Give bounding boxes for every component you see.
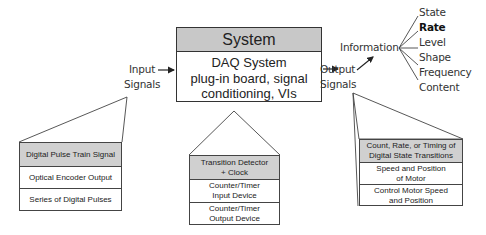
system-stack-item: Counter/Timer Input Device <box>190 179 279 202</box>
info-item-state: State <box>419 5 471 20</box>
output-stack-line: Speed and Position <box>376 164 445 174</box>
system-callout <box>189 111 280 155</box>
system-stack-item: Counter/Timer Output Device <box>190 202 279 224</box>
input-label-line-1: Input <box>124 62 160 77</box>
input-signals-label: Input Signals <box>124 62 160 92</box>
input-signal-stack: Digital Pulse Train Signal Optical Encod… <box>19 142 122 211</box>
info-item-content: Content <box>419 80 471 95</box>
system-stack-line: Input Device <box>212 191 256 201</box>
output-stack-item: Count, Rate, or Timing of Digital State … <box>360 140 462 162</box>
info-item-shape: Shape <box>419 50 471 65</box>
output-signal-stack: Count, Rate, or Timing of Digital State … <box>359 139 463 206</box>
information-fan-lines <box>399 16 418 80</box>
system-component-stack: Transition Detector + Clock Counter/Time… <box>189 155 280 225</box>
output-signals-label: Output Signals <box>320 62 360 92</box>
input-callout <box>19 97 127 142</box>
system-body-line: conditioning, VIs <box>177 86 321 102</box>
output-stack-item: Speed and Position of Motor <box>360 162 462 184</box>
output-stack-line: Control Motor Speed <box>374 186 448 196</box>
system-body-line: plug-in board, signal <box>177 71 321 87</box>
system-body-line: DAQ System <box>177 55 321 71</box>
output-stack-line: and Position <box>389 196 433 206</box>
input-stack-item: Digital Pulse Train Signal <box>20 143 121 166</box>
input-stack-item: Series of Digital Pulses <box>20 188 121 210</box>
output-label-line-2: Signals <box>320 77 360 92</box>
output-stack-line: of Motor <box>396 174 425 184</box>
information-label: Information <box>340 40 399 55</box>
system-stack-line: Counter/Timer <box>209 204 260 214</box>
info-item-rate: Rate <box>419 20 471 35</box>
system-stack-item: Transition Detector + Clock <box>190 156 279 179</box>
output-stack-line: Digital State Transitions <box>369 151 453 161</box>
output-label-line-1: Output <box>320 62 360 77</box>
output-stack-line: Count, Rate, or Timing of <box>367 141 456 151</box>
system-stack-line: Counter/Timer <box>209 181 260 191</box>
info-item-level: Level <box>419 35 471 50</box>
system-stack-line: Transition Detector <box>201 158 268 168</box>
system-stack-line: Output Device <box>209 214 260 224</box>
information-list: State Rate Level Shape Frequency Content <box>419 5 471 95</box>
system-box: System DAQ System plug-in board, signal … <box>176 27 322 102</box>
input-stack-item: Optical Encoder Output <box>20 166 121 188</box>
system-title: System <box>177 28 321 52</box>
system-stack-line: + Clock <box>221 168 248 178</box>
output-stack-item: Control Motor Speed and Position <box>360 184 462 207</box>
input-label-line-2: Signals <box>124 77 160 92</box>
system-body: DAQ System plug-in board, signal conditi… <box>177 52 321 102</box>
info-item-frequency: Frequency <box>419 65 471 80</box>
